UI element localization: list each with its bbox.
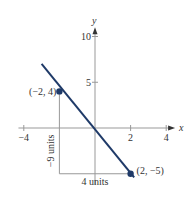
slope-guides: −9 units 4 units — [45, 91, 130, 186]
x-tick-label: −4 — [18, 132, 29, 143]
chart: x y −424510 −9 units 4 units (−2, 4)(2, … — [0, 0, 196, 197]
axes: x y — [18, 15, 184, 184]
y-axis-arrow-icon — [93, 27, 98, 34]
point-label: (2, −5) — [137, 165, 164, 177]
x-tick-label: 4 — [164, 132, 169, 143]
point-label: (−2, 4) — [29, 86, 56, 98]
y-tick-label: 10 — [81, 31, 91, 42]
x-tick-label: 2 — [128, 132, 133, 143]
y-axis-label: y — [91, 15, 97, 26]
data-point — [127, 171, 133, 177]
rise-label: −9 units — [45, 134, 56, 167]
data-point — [56, 88, 62, 94]
x-axis-label: x — [178, 122, 184, 133]
run-label: 4 units — [82, 176, 109, 187]
y-tick-label: 5 — [86, 77, 91, 88]
x-axis-arrow-icon — [168, 126, 175, 131]
